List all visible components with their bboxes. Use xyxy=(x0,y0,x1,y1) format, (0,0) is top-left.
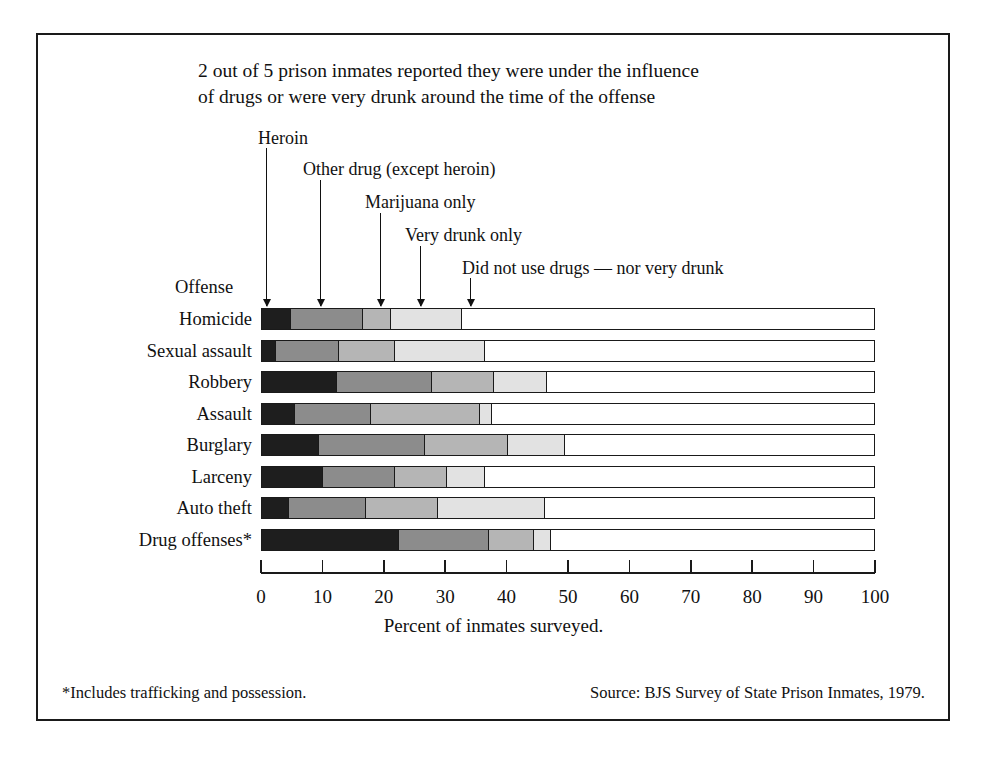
bar-segment xyxy=(262,341,275,361)
source-note: Source: BJS Survey of State Prison Inmat… xyxy=(590,683,925,703)
bar-row xyxy=(261,497,875,519)
x-tick xyxy=(874,560,876,573)
x-tick xyxy=(567,560,569,573)
bar-segment xyxy=(390,309,460,329)
bar-segment xyxy=(546,372,874,392)
callout-label-2: Marijuana only xyxy=(365,192,475,212)
bar-row xyxy=(261,466,875,488)
bar-segment xyxy=(394,467,446,487)
bar-row xyxy=(261,371,875,393)
callout-label-0: Heroin xyxy=(258,128,308,148)
chart-page: 2 out of 5 prison inmates reported they … xyxy=(0,0,987,759)
bar-segment xyxy=(394,341,484,361)
callout-label-4: Did not use drugs — nor very drunk xyxy=(462,258,723,278)
row-label-7: Drug offenses* xyxy=(139,530,252,551)
x-tick-label: 50 xyxy=(559,586,578,608)
bar-segment xyxy=(294,404,371,424)
bar-segment xyxy=(493,372,546,392)
bar-segment xyxy=(533,530,550,550)
x-tick-label: 70 xyxy=(681,586,700,608)
bar-segment xyxy=(564,435,874,455)
x-tick-label: 80 xyxy=(743,586,762,608)
callout-arrow-3 xyxy=(420,246,421,306)
bar-segment xyxy=(479,404,492,424)
chart-title-line-2: of drugs or were very drunk around the t… xyxy=(198,84,798,110)
bar-segment xyxy=(338,341,394,361)
bar-segment xyxy=(262,372,336,392)
bar-segment xyxy=(544,498,874,518)
bar-segment xyxy=(336,372,431,392)
x-tick-label: 10 xyxy=(313,586,332,608)
callout-label-1: Other drug (except heroin) xyxy=(303,159,495,179)
bar-segment xyxy=(318,435,424,455)
row-label-5: Larceny xyxy=(191,467,252,488)
bar-segment xyxy=(262,467,322,487)
x-axis-title: Percent of inmates surveyed. xyxy=(0,615,987,637)
callout-arrow-2 xyxy=(380,213,381,306)
callout-label-3: Very drunk only xyxy=(405,225,522,245)
bar-row xyxy=(261,308,875,330)
bar-segment xyxy=(484,467,874,487)
x-tick xyxy=(260,560,262,573)
bar-row xyxy=(261,340,875,362)
bar-segment xyxy=(365,498,437,518)
x-tick-label: 30 xyxy=(436,586,455,608)
x-tick xyxy=(444,560,446,573)
bar-segment xyxy=(550,530,874,550)
bar-segment xyxy=(370,404,478,424)
bar-segment xyxy=(362,309,390,329)
bar-row xyxy=(261,434,875,456)
bar-row xyxy=(261,403,875,425)
bar-segment xyxy=(262,309,290,329)
bar-segment xyxy=(262,435,318,455)
x-tick xyxy=(322,560,324,573)
bar-segment xyxy=(446,467,483,487)
bar-segment xyxy=(437,498,544,518)
bar-segment xyxy=(424,435,507,455)
bar-segment xyxy=(507,435,564,455)
bar-segment xyxy=(262,530,398,550)
x-tick-label: 100 xyxy=(861,586,890,608)
x-tick-label: 60 xyxy=(620,586,639,608)
x-tick-label: 40 xyxy=(497,586,516,608)
x-tick-label: 0 xyxy=(256,586,266,608)
footnote: *Includes trafficking and possession. xyxy=(62,683,306,703)
x-tick xyxy=(690,560,692,573)
bar-segment xyxy=(262,498,288,518)
chart-title-line-1: 2 out of 5 prison inmates reported they … xyxy=(198,58,798,84)
bar-segment xyxy=(288,498,365,518)
bar-segment xyxy=(484,341,874,361)
callout-arrow-4 xyxy=(470,278,471,306)
bar-segment xyxy=(290,309,363,329)
x-tick xyxy=(629,560,631,573)
bar-segment xyxy=(491,404,874,424)
bar-segment xyxy=(488,530,533,550)
x-tick xyxy=(383,560,385,573)
row-label-2: Robbery xyxy=(188,372,252,393)
bar-segment xyxy=(322,467,394,487)
row-label-6: Auto theft xyxy=(176,498,252,519)
callout-arrow-0 xyxy=(266,148,267,306)
callout-arrow-1 xyxy=(320,180,321,306)
x-tick-label: 20 xyxy=(374,586,393,608)
y-axis-title: Offense xyxy=(175,277,233,298)
row-label-1: Sexual assault xyxy=(147,341,252,362)
bar-segment xyxy=(431,372,493,392)
row-label-4: Burglary xyxy=(187,435,252,456)
x-tick-label: 90 xyxy=(804,586,823,608)
row-label-0: Homicide xyxy=(179,309,252,330)
bar-segment xyxy=(262,404,294,424)
x-tick xyxy=(751,560,753,573)
x-tick xyxy=(813,560,815,573)
bar-segment xyxy=(275,341,337,361)
bar-segment xyxy=(398,530,488,550)
bar-segment xyxy=(461,309,874,329)
chart-title: 2 out of 5 prison inmates reported they … xyxy=(198,58,798,110)
bar-row xyxy=(261,529,875,551)
row-label-3: Assault xyxy=(197,404,253,425)
x-tick xyxy=(506,560,508,573)
